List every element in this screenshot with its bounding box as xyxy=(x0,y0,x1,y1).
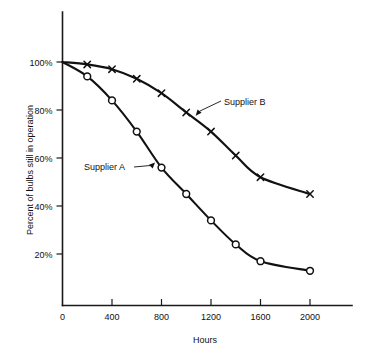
x-tick-label-3: 1200 xyxy=(201,312,221,322)
y-tick-label-2: 60% xyxy=(34,154,52,164)
annotation-supplier-b: Supplier B xyxy=(196,97,266,116)
x-axis-title: Hours xyxy=(193,335,218,345)
marker-supplier-a-1400 xyxy=(232,241,239,248)
annotation-supplier-a-leader xyxy=(134,165,152,167)
annotation-supplier-b-label: Supplier B xyxy=(224,97,266,107)
x-tick-label-1: 400 xyxy=(104,312,119,322)
marker-supplier-a-800 xyxy=(158,164,165,171)
line-chart-canvas: 20%40%60%80%100% 0400800120016002000 Sup… xyxy=(0,0,378,360)
marker-supplier-b-1000 xyxy=(183,109,189,115)
x-tick-label-2: 800 xyxy=(154,312,169,322)
y-axis-title: Percent of bulbs still in operation xyxy=(25,105,35,235)
x-axis-ticks: 0400800120016002000 xyxy=(60,299,320,322)
x-tick-label-0: 0 xyxy=(60,312,65,322)
annotation-supplier-a-arrowhead xyxy=(149,162,155,168)
x-tick-label-5: 2000 xyxy=(300,312,320,322)
y-tick-label-3: 80% xyxy=(34,106,52,116)
marker-supplier-a-600 xyxy=(133,128,140,135)
x-tick-label-4: 1600 xyxy=(250,312,270,322)
marker-supplier-a-1000 xyxy=(183,191,190,198)
marker-supplier-a-1600 xyxy=(257,258,264,265)
marker-supplier-a-1200 xyxy=(208,217,215,224)
y-tick-label-1: 40% xyxy=(34,202,52,212)
y-tick-label-4: 100% xyxy=(29,58,52,68)
marker-supplier-a-200 xyxy=(84,73,91,80)
annotation-supplier-a-label: Supplier A xyxy=(84,162,125,172)
marker-supplier-b-800 xyxy=(158,90,164,96)
series-line-supplier-b xyxy=(63,62,311,194)
marker-supplier-a-400 xyxy=(109,97,116,104)
chart-figure: 20%40%60%80%100% 0400800120016002000 Sup… xyxy=(0,0,378,360)
marker-supplier-a-2000 xyxy=(307,267,314,274)
y-tick-label-0: 20% xyxy=(34,250,52,260)
marker-supplier-b-1200 xyxy=(208,128,214,134)
annotation-supplier-b-leader xyxy=(200,101,221,111)
annotation-supplier-a: Supplier A xyxy=(84,162,155,172)
marker-supplier-b-1400 xyxy=(233,152,239,158)
